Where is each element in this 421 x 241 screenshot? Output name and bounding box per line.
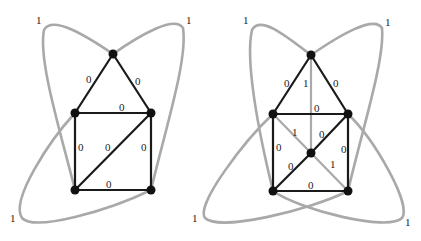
- label-diag-lower: 0: [288, 160, 294, 172]
- label-bottom: 0: [106, 178, 112, 190]
- label-mid-top: 0: [119, 101, 125, 113]
- label-top-right: 0: [333, 77, 339, 89]
- node-bottom-left: [269, 187, 278, 196]
- label-top-left: 0: [86, 73, 92, 85]
- right-graph: 0 1 0 0 1 0 0 0 0 1 0 1 1 1 1: [192, 14, 411, 228]
- node-mid-right: [344, 110, 353, 119]
- node-top: [307, 51, 316, 60]
- label-diag-upper: 0: [319, 128, 325, 140]
- label-loop-top-left: 1: [36, 14, 42, 26]
- label-right-vertical: 0: [341, 143, 347, 155]
- label-left-vertical: 0: [276, 141, 282, 153]
- label-top-center: 1: [303, 77, 309, 89]
- loop-bottom-left: [20, 113, 151, 222]
- label-loop-top-right: 1: [186, 14, 192, 26]
- edge-diagonal: [75, 113, 151, 190]
- label-cross-lower-right: 1: [330, 158, 336, 170]
- node-mid-left: [71, 109, 80, 118]
- node-bottom-right: [147, 186, 156, 195]
- node-bottom-left: [71, 186, 80, 195]
- edge-top-left: [75, 54, 113, 113]
- label-bottom: 0: [308, 179, 314, 191]
- label-loop-top-right: 1: [385, 16, 391, 28]
- node-mid-left: [269, 110, 278, 119]
- label-loop-bottom-right: 1: [405, 216, 411, 228]
- label-diagonal: 0: [105, 141, 111, 153]
- label-top-left: 0: [284, 77, 290, 89]
- label-mid-top: 0: [314, 102, 320, 114]
- left-graph: 0 0 0 0 0 0 0 1 1 1: [10, 14, 192, 224]
- node-center: [307, 149, 316, 158]
- node-mid-right: [147, 109, 156, 118]
- diagram-canvas: 0 0 0 0 0 0 0 1 1 1: [0, 0, 421, 241]
- label-right-vertical: 0: [141, 141, 147, 153]
- label-loop-top-left: 1: [243, 14, 249, 26]
- node-bottom-right: [344, 187, 353, 196]
- loop-top-left: [250, 25, 311, 191]
- label-cross-upper-left: 1: [292, 126, 298, 138]
- label-loop-bottom-left: 1: [192, 212, 198, 224]
- label-left-vertical: 0: [78, 141, 84, 153]
- loop-top-right: [311, 24, 382, 191]
- edge-diag-lower: [273, 153, 311, 191]
- node-top: [109, 50, 118, 59]
- label-top-right: 0: [135, 75, 141, 87]
- label-loop-bottom-left: 1: [10, 212, 16, 224]
